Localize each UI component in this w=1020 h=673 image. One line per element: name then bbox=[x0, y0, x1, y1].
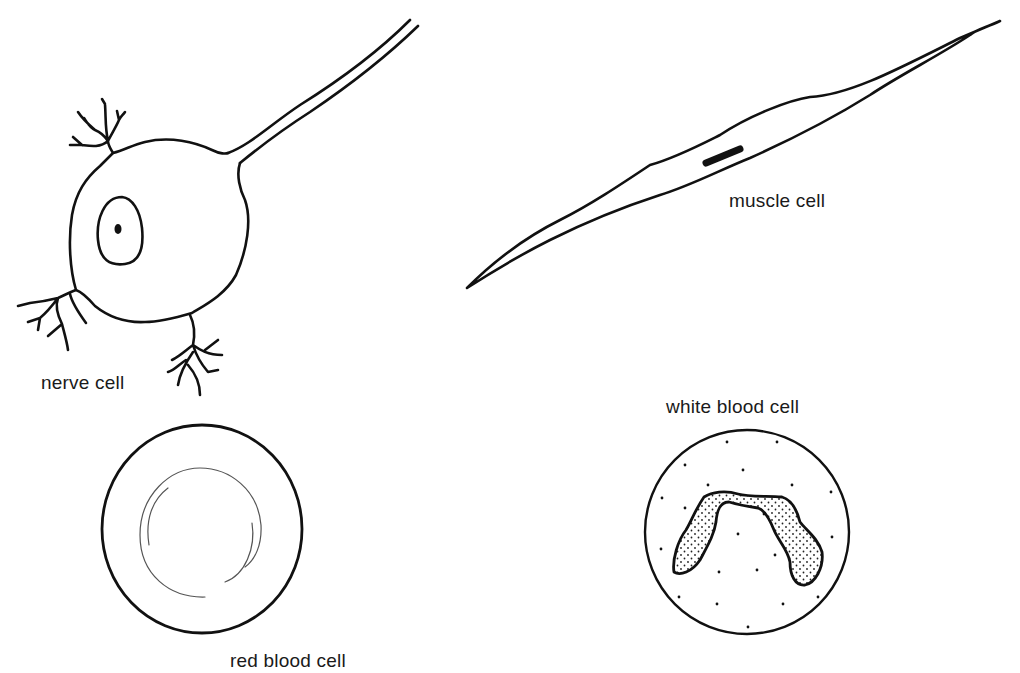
white-blood-cell-outline bbox=[645, 430, 849, 634]
red-blood-cell-inner-arc-right bbox=[225, 523, 253, 582]
red-blood-cell-inner-ring bbox=[140, 468, 261, 597]
muscle-cell-drawing bbox=[467, 21, 1000, 288]
nerve-nucleolus bbox=[115, 224, 122, 234]
white-blood-cell-drawing bbox=[645, 430, 849, 634]
dendrite-left bbox=[18, 290, 86, 350]
red-blood-cell-outline bbox=[102, 425, 302, 633]
white-blood-cell-label: white blood cell bbox=[666, 396, 799, 418]
red-blood-cell-label: red blood cell bbox=[230, 650, 346, 672]
dendrite-bottom bbox=[168, 315, 222, 395]
red-blood-cell-drawing bbox=[102, 425, 302, 633]
nerve-cell-label: nerve cell bbox=[41, 372, 124, 394]
muscle-cell-label: muscle cell bbox=[729, 190, 825, 212]
dendrite-top bbox=[70, 99, 125, 153]
cell-diagram bbox=[0, 0, 1020, 673]
nerve-cell-drawing bbox=[18, 20, 418, 395]
axon-lower-edge bbox=[240, 26, 418, 163]
axon-upper-edge bbox=[228, 20, 410, 153]
muscle-nucleus bbox=[706, 149, 740, 163]
white-blood-cell-nucleus bbox=[674, 492, 823, 585]
